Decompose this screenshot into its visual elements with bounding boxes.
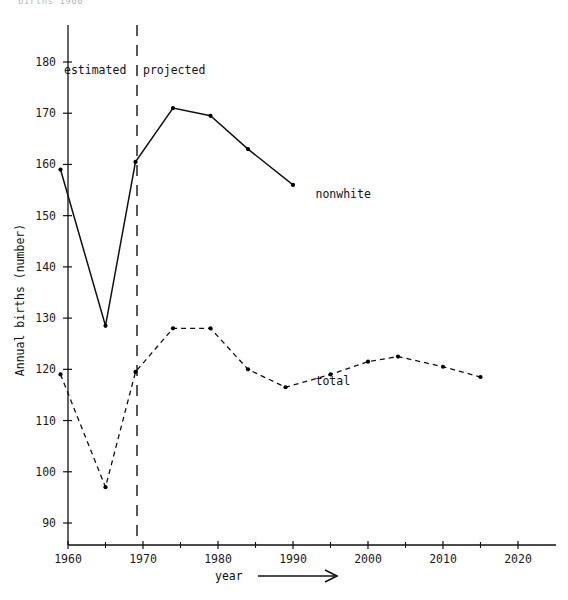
data-point-total	[441, 365, 445, 369]
data-point-total	[283, 385, 287, 389]
x-axis-arrow-icon	[258, 570, 337, 582]
y-tick-label: 90	[42, 516, 56, 530]
data-point-total	[103, 485, 107, 489]
x-axis-title: year	[215, 569, 243, 583]
data-point-nonwhite	[291, 183, 295, 187]
data-point-nonwhite	[171, 106, 175, 110]
x-tick-label: 2010	[429, 552, 457, 566]
annotation-projected: projected	[143, 63, 205, 77]
y-tick-label: 110	[35, 414, 56, 428]
series-line-total	[61, 328, 481, 487]
y-tick-label: 160	[35, 157, 56, 171]
data-point-total	[171, 326, 175, 330]
series-line-nonwhite	[61, 108, 294, 326]
x-tick-label: 1990	[279, 552, 307, 566]
y-tick-label: 180	[35, 55, 56, 69]
data-point-total	[396, 354, 400, 358]
series-label-total: total	[316, 374, 351, 388]
x-tick-label: 2020	[504, 552, 532, 566]
data-point-nonwhite	[133, 160, 137, 164]
y-axis-tick-labels: 90100110120130140150160170180	[35, 55, 56, 530]
chart-figure: births 1960 9010011012013014015016017018…	[0, 0, 568, 600]
data-point-total	[58, 372, 62, 376]
data-point-nonwhite	[103, 324, 107, 328]
y-tick-label: 150	[35, 209, 56, 223]
x-tick-label: 2000	[354, 552, 382, 566]
data-point-nonwhite	[246, 147, 250, 151]
data-point-nonwhite	[58, 167, 62, 171]
annotation-estimated: estimated	[64, 63, 126, 77]
y-tick-label: 100	[35, 465, 56, 479]
y-tick-label: 170	[35, 106, 56, 120]
data-point-total	[133, 370, 137, 374]
y-tick-label: 140	[35, 260, 56, 274]
x-tick-label: 1980	[204, 552, 232, 566]
data-point-total	[208, 326, 212, 330]
data-series	[58, 106, 482, 489]
annual-births-line-chart: 90100110120130140150160170180 1960197019…	[0, 0, 568, 600]
x-axis-tick-labels: 1960197019801990200020102020	[54, 552, 532, 566]
series-label-nonwhite: nonwhite	[316, 187, 371, 201]
y-tick-label: 120	[35, 362, 56, 376]
y-axis-title: Annual births (number)	[13, 224, 27, 376]
data-point-total	[478, 375, 482, 379]
data-point-total	[246, 367, 250, 371]
x-tick-label: 1960	[54, 552, 82, 566]
y-tick-label: 130	[35, 311, 56, 325]
axes	[68, 25, 556, 545]
x-tick-label: 1970	[129, 552, 157, 566]
data-point-nonwhite	[208, 114, 212, 118]
data-point-total	[366, 360, 370, 364]
